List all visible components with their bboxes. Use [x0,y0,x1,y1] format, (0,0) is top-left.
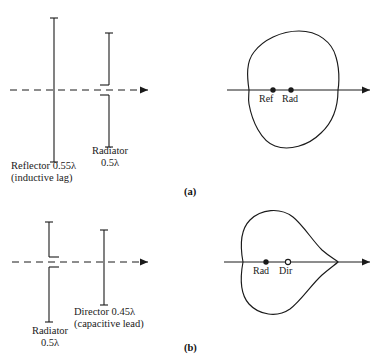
panel-a-schematic [10,18,148,162]
panel-b-caption: (b) [184,342,197,353]
reflector-label-line2: (inductive lag) [11,172,73,184]
panel-a-pattern [227,31,370,148]
radiator-a-label-line1: Radiator [75,145,145,157]
marker-rad-a [288,87,293,92]
panel-b-axis [12,259,148,266]
director-label-line1: Director 0.45λ [74,306,135,318]
marker-label-ref: Ref [259,93,273,104]
marker-label-dir: Dir [279,265,292,276]
reflector-label-line1: Reflector 0.55λ [11,160,76,172]
marker-dir [285,259,290,264]
panel-b-pattern [224,211,370,315]
director-label-line2: (capacitive lead) [74,318,144,330]
antenna-pattern-figure: Reflector 0.55λ (inductive lag) Radiator… [0,0,381,363]
marker-rad-b [263,259,268,264]
radiator-b-label-line2: 0.5λ [14,337,86,349]
marker-label-rad-a: Rad [282,93,298,104]
radiator-element-b [45,222,59,322]
radiator-a-label-line2: 0.5λ [75,157,145,169]
marker-label-rad-b: Rad [253,265,269,276]
panel-a-axis [10,87,148,94]
panel-a-caption: (a) [184,186,196,197]
marker-ref [270,87,275,92]
director-element [100,230,108,305]
